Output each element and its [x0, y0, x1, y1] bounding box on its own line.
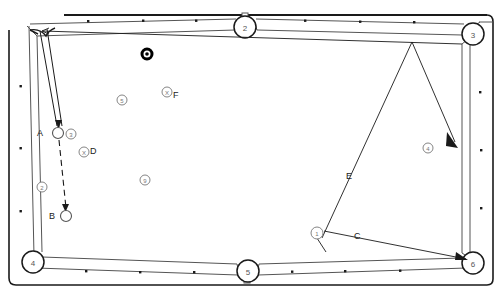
- ball-a: [53, 128, 64, 139]
- path-e: [322, 42, 455, 238]
- rail-bottom-left-band: [36, 268, 238, 275]
- pocket-4-label: 4: [31, 259, 36, 268]
- pocket-6: 6: [462, 252, 484, 274]
- label-f: F: [173, 90, 179, 100]
- diamond-top-5: [359, 21, 361, 23]
- cue-stick: [40, 29, 62, 128]
- label-e: E: [346, 171, 352, 181]
- pocket-2-label: 2: [243, 24, 248, 33]
- pocket-2: 2: [234, 16, 256, 38]
- cushion-left: [37, 36, 42, 252]
- diamond-bottom-2: [139, 271, 141, 273]
- diamond-bottom-4: [291, 271, 293, 273]
- label-c: C: [354, 231, 361, 241]
- cushion-top-left: [37, 30, 235, 36]
- path-a-to-b: [59, 140, 66, 208]
- pocket-5-label: 5: [246, 268, 251, 277]
- diamond-bottom-1: [85, 270, 87, 272]
- cushion-top-right: [257, 30, 462, 35]
- diamond-bottom-5: [344, 270, 346, 272]
- label-b: B: [49, 211, 55, 221]
- cushion-bottom-left: [42, 257, 237, 264]
- diamond-right-3: [480, 207, 482, 209]
- balls-group: A B 3 5 9: [37, 49, 433, 239]
- cushion-bottom-right: [259, 258, 462, 264]
- diamond-right-1: [479, 91, 481, 93]
- diamond-left-3: [20, 210, 22, 212]
- ball-eight: [142, 49, 152, 59]
- ball-b-circle: [61, 211, 72, 222]
- ball-9: 9: [140, 175, 150, 185]
- pocket-4: 4: [22, 251, 44, 273]
- ball-4: 4: [423, 143, 433, 153]
- diamond-bottom-6: [399, 270, 401, 272]
- diagram-canvas: 2 3 4 5 6: [0, 0, 501, 294]
- path-e-down: [412, 42, 455, 142]
- pocket-3-label: 3: [471, 31, 476, 40]
- guide-arrowhead-a: [42, 28, 49, 31]
- diamond-top-4: [304, 20, 306, 22]
- rail-diamonds: [20, 20, 483, 274]
- ball-x-d-marker: X: [82, 150, 86, 156]
- ball-b: [61, 211, 72, 222]
- ball-x-f-marker: X: [165, 90, 169, 96]
- diamond-top-2: [142, 20, 144, 22]
- ball-eight-dot: [145, 52, 149, 56]
- ball-5: 5: [117, 95, 127, 105]
- pocket-top-left-curl: [30, 28, 55, 36]
- ball-x-f: X: [162, 87, 172, 97]
- rail-left-band: [29, 26, 34, 256]
- pocket-6-label: 6: [471, 260, 476, 269]
- diamond-top-1: [87, 20, 89, 22]
- ball-3: 3: [66, 129, 76, 139]
- pocket-5: 5: [237, 260, 259, 282]
- diamond-top-6: [413, 21, 415, 23]
- pool-table-diagram: 2 3 4 5 6: [0, 0, 501, 294]
- diamond-right-2: [480, 149, 482, 151]
- path-e-up: [322, 42, 412, 238]
- path-c: [324, 231, 466, 259]
- diamond-top-3: [195, 20, 197, 22]
- rail-top-left-band: [30, 19, 236, 24]
- ball-1: 1: [311, 227, 323, 239]
- rail-bottom-right-band: [258, 268, 466, 275]
- ball-2: 2: [37, 182, 47, 192]
- label-d: D: [90, 146, 97, 156]
- ball-x-d: X: [79, 147, 89, 157]
- label-a: A: [37, 128, 43, 138]
- ball-a-circle: [53, 128, 64, 139]
- pocket-3: 3: [462, 23, 484, 45]
- diamond-bottom-3: [193, 271, 195, 273]
- diamond-left-1: [20, 85, 22, 87]
- cue-arrowhead: [55, 120, 62, 128]
- diamond-left-2: [20, 147, 22, 149]
- path-c-line: [324, 231, 466, 259]
